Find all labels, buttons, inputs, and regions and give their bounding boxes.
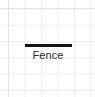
grid-edge-left-rule bbox=[8, 0, 9, 97]
legend-canvas: Fence bbox=[0, 0, 95, 97]
legend-entry-fence[interactable]: Fence bbox=[24, 44, 72, 62]
grid-edge-top-rule bbox=[0, 8, 95, 9]
fence-line-symbol bbox=[25, 44, 72, 47]
fence-label: Fence bbox=[24, 49, 72, 62]
